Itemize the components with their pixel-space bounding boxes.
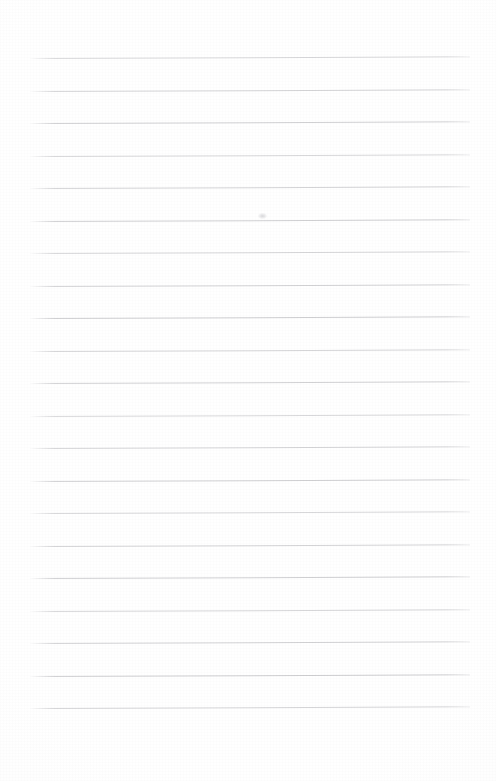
ruled-line — [30, 511, 470, 514]
ruled-line — [30, 544, 470, 547]
ruled-line — [30, 641, 470, 644]
scanned-page: Blank Ruled Notepad Page Blank lined not… — [0, 0, 496, 781]
ruled-lines-layer — [0, 0, 496, 781]
ruled-line — [30, 479, 470, 482]
ruled-line — [30, 154, 470, 157]
ruled-line — [30, 251, 470, 254]
ruled-line — [30, 56, 470, 59]
ruled-line — [30, 576, 470, 579]
ruled-line — [30, 349, 470, 352]
ruled-line — [30, 89, 470, 92]
ruled-line — [30, 706, 470, 709]
ruled-line — [30, 414, 470, 417]
ruled-line — [30, 674, 470, 677]
ruled-line — [30, 121, 470, 124]
ruled-line — [30, 219, 470, 222]
ruled-line — [30, 316, 470, 319]
ruled-line — [30, 381, 470, 384]
ruled-line — [30, 284, 470, 287]
ruled-line — [30, 446, 470, 449]
ruled-line — [30, 609, 470, 612]
ruled-line — [30, 186, 470, 189]
